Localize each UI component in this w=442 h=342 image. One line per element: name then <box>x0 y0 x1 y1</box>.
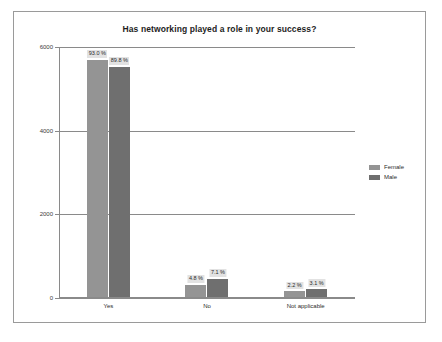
x-axis-category-label: Yes <box>103 303 113 309</box>
bar-value-label: 3.1 % <box>308 279 325 287</box>
x-axis-category-label: Not applicable <box>287 303 325 309</box>
bar-value-label: 4.8 % <box>187 275 204 283</box>
bar-value-label: 93.0 % <box>87 50 107 58</box>
bar-value-label: 7.1 % <box>209 269 226 277</box>
bar-yes-male[interactable]: 89.8 % <box>109 67 130 298</box>
legend-label: Female <box>384 164 404 170</box>
y-axis-tick-label: 4000 <box>40 128 53 134</box>
legend-item-male[interactable]: Male <box>369 174 404 180</box>
bar-value-label: 89.8 % <box>109 57 129 65</box>
legend-swatch-icon <box>369 175 380 180</box>
chart-title: Has networking played a role in your suc… <box>14 24 425 34</box>
bar-not-applicable-male[interactable]: 3.1 % <box>306 289 327 297</box>
legend-label: Male <box>384 174 397 180</box>
y-axis-tick-label: 6000 <box>40 44 53 50</box>
bar-group: 4.8 %7.1 %No <box>158 46 257 297</box>
y-axis-tick-label: 2000 <box>40 211 53 217</box>
bar-not-applicable-female[interactable]: 2.2 % <box>284 291 305 297</box>
bar-value-label: 2.2 % <box>286 282 303 290</box>
bar-yes-female[interactable]: 93.0 % <box>87 60 108 297</box>
gridline <box>59 298 355 299</box>
x-axis-category-label: No <box>203 303 211 309</box>
chart-frame: Has networking played a role in your suc… <box>13 11 426 323</box>
bar-group: 2.2 %3.1 %Not applicable <box>256 46 355 297</box>
legend-swatch-icon <box>369 165 380 170</box>
chart-legend: FemaleMale <box>369 164 404 184</box>
y-axis-tick-mark <box>55 298 59 299</box>
legend-item-female[interactable]: Female <box>369 164 404 170</box>
y-axis-tick-label: 0 <box>50 295 53 301</box>
plot-area: 0200040006000 93.0 %89.8 %Yes4.8 %7.1 %N… <box>59 47 355 298</box>
bar-no-female[interactable]: 4.8 % <box>185 285 206 297</box>
bar-group: 93.0 %89.8 %Yes <box>59 46 158 297</box>
bar-no-male[interactable]: 7.1 % <box>207 279 228 297</box>
